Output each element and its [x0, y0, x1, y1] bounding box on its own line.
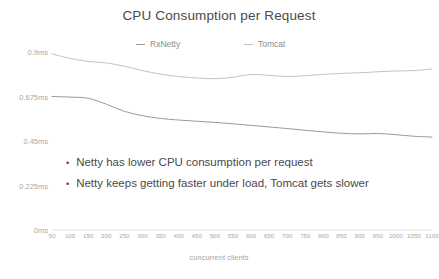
list-item: • Netty keeps getting faster under load,…: [66, 173, 426, 194]
list-item-label: Netty has lower CPU consumption per requ…: [76, 152, 313, 172]
x-axis-tick-label: 550: [228, 232, 238, 239]
list-item: • Netty has lower CPU consumption per re…: [66, 152, 426, 173]
x-axis-tick-label: 850: [336, 232, 346, 239]
page-title: CPU Consumption per Request: [0, 8, 438, 23]
x-axis-tick-label: 350: [155, 232, 165, 239]
x-axis-tick-label: 450: [192, 232, 202, 239]
y-axis-tick-label: 0.45ms: [23, 137, 48, 146]
bullet-icon: •: [66, 174, 69, 194]
legend-item-tomcat[interactable]: Tomcat: [244, 39, 285, 49]
annotation-list: • Netty has lower CPU consumption per re…: [66, 152, 426, 194]
x-axis-tick-label: 500: [210, 232, 220, 239]
y-axis-tick-label: 0ms: [34, 226, 48, 235]
x-axis-tick-label: 750: [300, 232, 310, 239]
plot-area: [52, 52, 432, 230]
x-axis-tick-label: 1100: [425, 232, 438, 239]
legend-label: RxNetty: [150, 39, 180, 49]
legend-label: Tomcat: [258, 39, 285, 49]
x-axis-tick-label: 900: [354, 232, 364, 239]
x-axis-tick-label: 1050: [407, 232, 421, 239]
legend-line-marker-icon: [244, 44, 253, 45]
x-axis-title: concurrent clients: [0, 253, 438, 262]
x-axis-tick-label: 1000: [389, 232, 403, 239]
x-axis-tick-label: 600: [246, 232, 256, 239]
x-axis-tick-label: 650: [264, 232, 274, 239]
x-axis: 5010015020025030035040045050055060065070…: [52, 232, 432, 244]
legend-line-marker-icon: [136, 44, 145, 45]
x-axis-tick-label: 800: [318, 232, 328, 239]
legend-item-rxnetty[interactable]: RxNetty: [136, 39, 180, 49]
list-item-label: Netty keeps getting faster under load, T…: [76, 173, 369, 193]
y-axis-tick-label: 0.225ms: [19, 181, 48, 190]
x-axis-tick-label: 300: [137, 232, 147, 239]
x-axis-tick-label: 250: [119, 232, 129, 239]
x-axis-tick-label: 100: [65, 232, 75, 239]
x-axis-tick-label: 400: [173, 232, 183, 239]
series-line-tomcat: [52, 54, 432, 79]
x-axis-tick-label: 200: [101, 232, 111, 239]
x-axis-tick-label: 150: [83, 232, 93, 239]
bullet-icon: •: [66, 153, 69, 173]
x-axis-tick-label: 50: [49, 232, 56, 239]
y-axis: 0ms0.225ms0.45ms0.675ms0.9ms: [0, 0, 52, 279]
x-axis-tick-label: 700: [282, 232, 292, 239]
chart-canvas: [52, 52, 432, 230]
y-axis-tick-label: 0.9ms: [28, 48, 48, 57]
x-axis-tick-label: 950: [373, 232, 383, 239]
chart-legend: RxNetty Tomcat: [136, 39, 336, 53]
y-axis-tick-label: 0.675ms: [19, 92, 48, 101]
series-line-rxnetty: [52, 97, 432, 138]
